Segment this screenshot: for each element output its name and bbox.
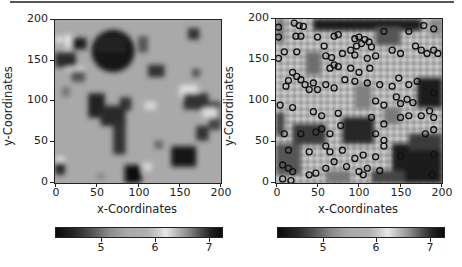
left-heatmap-axes bbox=[54, 19, 222, 184]
y-tick-label: 200 bbox=[18, 13, 48, 25]
left-heatmap bbox=[55, 20, 221, 183]
y-tick bbox=[50, 141, 54, 142]
y-axis-title: y-Coordinates bbox=[1, 66, 15, 146]
y-tick-label: 50 bbox=[239, 135, 269, 147]
colorbar-tick-label: 7 bbox=[420, 241, 440, 254]
y-tick-label: 200 bbox=[239, 12, 269, 24]
y-tick bbox=[271, 182, 275, 183]
y-tick-label: 100 bbox=[18, 94, 48, 106]
x-axis-title: x-Coordinates bbox=[54, 202, 220, 216]
y-tick bbox=[50, 60, 54, 61]
x-tick-label: 0 bbox=[262, 187, 292, 199]
x-tick-label: 200 bbox=[427, 187, 457, 199]
right-heatmap bbox=[276, 19, 442, 183]
colorbar-tick-label: 7 bbox=[199, 241, 219, 254]
colorbar-tick-label: 6 bbox=[366, 241, 386, 254]
y-tick-label: 100 bbox=[239, 94, 269, 106]
y-tick-label: 50 bbox=[18, 135, 48, 147]
y-tick-label: 150 bbox=[18, 54, 48, 66]
y-tick bbox=[50, 100, 54, 101]
x-tick-label: 150 bbox=[386, 187, 416, 199]
x-tick-label: 100 bbox=[124, 187, 154, 199]
y-tick bbox=[50, 182, 54, 183]
x-tick-label: 200 bbox=[206, 187, 236, 199]
colorbar-tick-label: 5 bbox=[91, 241, 111, 254]
y-tick bbox=[50, 19, 54, 20]
top-rule bbox=[10, 1, 454, 3]
right-heatmap-axes bbox=[275, 18, 443, 184]
colorbar-tick-label: 5 bbox=[313, 241, 333, 254]
x-tick-label: 150 bbox=[165, 187, 195, 199]
y-tick bbox=[271, 141, 275, 142]
x-axis-title: x-Coordinates bbox=[275, 202, 441, 216]
y-tick bbox=[271, 59, 275, 60]
x-tick-label: 100 bbox=[344, 187, 374, 199]
y-tick bbox=[271, 100, 275, 101]
left-colorbar bbox=[55, 227, 223, 238]
colorbar-tick-label: 6 bbox=[145, 241, 165, 254]
x-tick-label: 50 bbox=[82, 187, 112, 199]
right-colorbar bbox=[277, 227, 445, 238]
y-tick-label: 150 bbox=[239, 53, 269, 65]
y-tick bbox=[271, 18, 275, 19]
y-axis-title: y-Coordinates bbox=[222, 66, 236, 146]
x-tick-label: 50 bbox=[303, 187, 333, 199]
x-tick-label: 0 bbox=[41, 187, 71, 199]
